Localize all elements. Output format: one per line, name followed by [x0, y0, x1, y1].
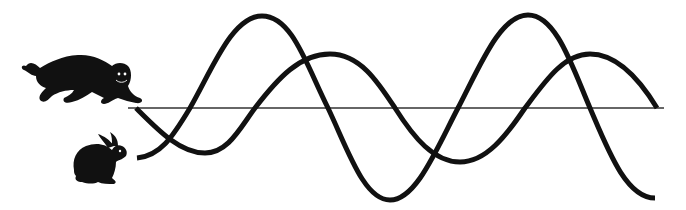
predator-prey-figure: Predator-prey population cycles illustra…: [0, 0, 686, 210]
rabbit-silhouette-icon: [74, 132, 127, 184]
cycle-chart: [0, 0, 686, 210]
cat-silhouette-icon: [22, 55, 142, 104]
